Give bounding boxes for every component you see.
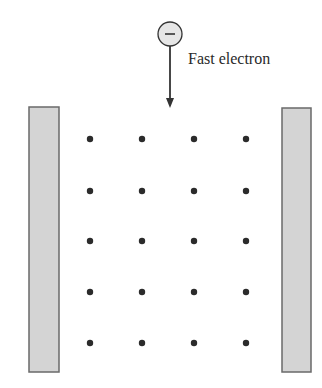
atom-dot: [191, 289, 197, 295]
atom-dot: [139, 188, 145, 194]
atom-dot: [139, 136, 145, 142]
atom-dot: [87, 136, 93, 142]
electron-label: Fast electron: [188, 50, 270, 68]
atom-dot: [139, 238, 145, 244]
diagram-canvas: [0, 0, 322, 388]
atom-dot: [243, 340, 249, 346]
atom-dot: [191, 340, 197, 346]
atom-dot: [87, 238, 93, 244]
atom-dot: [243, 188, 249, 194]
left-plate: [29, 107, 59, 372]
atom-dot: [87, 188, 93, 194]
atom-dot: [139, 289, 145, 295]
atom-dot: [191, 188, 197, 194]
atom-dot: [191, 238, 197, 244]
atom-lattice: [87, 136, 249, 346]
atom-dot: [87, 340, 93, 346]
arrow-down-icon: [166, 98, 174, 108]
trajectory-arrow: [166, 46, 174, 108]
atom-dot: [139, 340, 145, 346]
atom-dot: [87, 289, 93, 295]
electron: [158, 22, 182, 46]
atom-dot: [243, 136, 249, 142]
atom-dot: [191, 136, 197, 142]
atom-dot: [243, 238, 249, 244]
right-plate: [282, 108, 311, 372]
capacitor-plates: [29, 107, 311, 372]
atom-dot: [243, 289, 249, 295]
